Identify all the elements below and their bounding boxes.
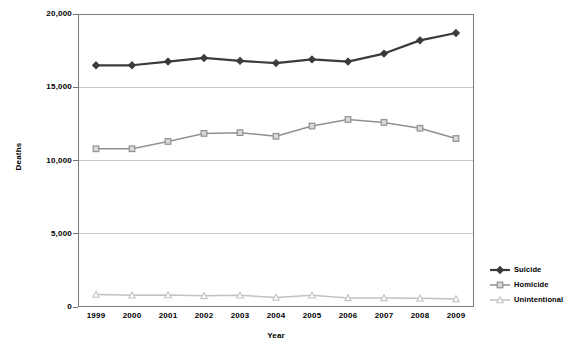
x-tick-label: 2004	[256, 311, 296, 320]
square-marker-icon	[165, 139, 171, 145]
x-tick-label: 1999	[76, 311, 116, 320]
x-tick-label: 2003	[220, 311, 260, 320]
legend-item-homicide[interactable]: Homicide	[489, 278, 569, 293]
x-axis-title: Year	[78, 331, 474, 340]
square-marker-icon	[345, 117, 351, 123]
x-tick-label: 2005	[292, 311, 332, 320]
legend-item-unintentional[interactable]: Unintentional	[489, 293, 569, 308]
x-axis-tick-labels: 1999200020012002200320042005200620072008…	[78, 311, 474, 325]
square-marker-icon	[417, 125, 423, 131]
x-tick-label: 2006	[328, 311, 368, 320]
diamond-marker-icon	[273, 60, 280, 67]
x-tick-label: 2001	[148, 311, 188, 320]
diamond-marker-icon	[165, 58, 172, 65]
square-marker-icon	[237, 130, 243, 136]
x-tick-label: 2009	[436, 311, 476, 320]
square-marker-icon	[453, 136, 459, 142]
diamond-marker-icon	[201, 55, 208, 62]
square-marker-icon	[129, 146, 135, 152]
diamond-marker-icon	[129, 62, 136, 69]
diamond-marker-icon	[381, 50, 388, 57]
diamond-marker-icon	[345, 58, 352, 65]
legend-label: Homicide	[514, 280, 549, 289]
plot-area	[0, 0, 570, 347]
diamond-marker-icon	[417, 37, 424, 44]
square-marker-icon	[381, 120, 387, 126]
diamond-marker-icon	[237, 57, 244, 64]
diamond-marker-icon	[489, 265, 511, 275]
square-marker-icon	[201, 131, 207, 137]
x-tick-label: 2000	[112, 311, 152, 320]
diamond-marker-icon	[309, 56, 316, 63]
square-marker-icon	[273, 134, 279, 140]
x-tick-label: 2002	[184, 311, 224, 320]
deaths-by-intent-line-chart: Deaths 05,00010,00015,00020,000 19992000…	[0, 0, 570, 347]
square-marker-icon	[93, 146, 99, 152]
square-marker-icon	[497, 282, 503, 288]
series-suicide	[93, 30, 460, 69]
diamond-marker-icon	[453, 30, 460, 37]
square-marker-icon	[489, 280, 511, 290]
x-tick-label: 2008	[400, 311, 440, 320]
series-unintentional	[93, 291, 459, 301]
diamond-marker-icon	[497, 267, 504, 274]
legend-label: Suicide	[514, 265, 541, 274]
legend-item-suicide[interactable]: Suicide	[489, 263, 569, 278]
square-marker-icon	[309, 123, 315, 129]
legend-label: Unintentional	[514, 295, 563, 304]
triangle-marker-icon	[489, 295, 511, 305]
chart-legend: SuicideHomicideUnintentional	[489, 263, 569, 308]
x-tick-label: 2007	[364, 311, 404, 320]
diamond-marker-icon	[93, 62, 100, 69]
series-homicide	[93, 117, 459, 152]
